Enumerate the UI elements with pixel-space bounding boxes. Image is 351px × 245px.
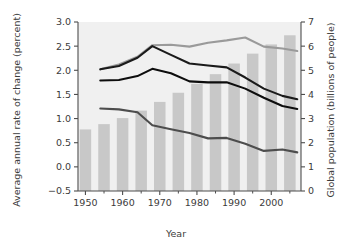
y-tick-label-left: 0.0 bbox=[56, 161, 71, 172]
x-tick-label: 1950 bbox=[73, 197, 97, 208]
y-tick-label-right: 3 bbox=[308, 113, 314, 124]
x-tick-label: 1990 bbox=[222, 197, 246, 208]
chart-figure: 195019601970198019902000 −0.50.00.51.01.… bbox=[0, 0, 351, 245]
y-tick-label-left: 1.0 bbox=[56, 113, 71, 124]
y-tick-label-right: 2 bbox=[308, 137, 314, 148]
bar bbox=[210, 74, 222, 191]
y-tick-label-left: 1.5 bbox=[56, 89, 71, 100]
y-tick-label-left: 2.5 bbox=[56, 41, 71, 52]
x-tick-label: 1980 bbox=[185, 197, 209, 208]
y-tick-label-left: 2.0 bbox=[56, 65, 71, 76]
bar bbox=[98, 124, 110, 191]
y-tick-label-right: 4 bbox=[308, 89, 314, 100]
y-axis-right-title: Global population (billions of people) bbox=[325, 22, 336, 197]
y-tick-label-left: 3.0 bbox=[56, 16, 71, 27]
bar bbox=[80, 129, 92, 191]
y-tick-label-left: −0.5 bbox=[48, 185, 71, 196]
y-tick-label-left: 0.5 bbox=[56, 137, 71, 148]
bar bbox=[247, 54, 259, 191]
bar bbox=[173, 93, 185, 191]
bar bbox=[135, 111, 147, 191]
x-axis-title: Year bbox=[165, 228, 186, 239]
y-tick-label-right: 7 bbox=[308, 16, 314, 27]
y-tick-label-right: 0 bbox=[308, 185, 314, 196]
bar bbox=[266, 44, 278, 191]
y-tick-label-right: 1 bbox=[308, 161, 314, 172]
y-tick-label-right: 6 bbox=[308, 41, 314, 52]
population-growth-chart: 195019601970198019902000 −0.50.00.51.01.… bbox=[0, 0, 351, 245]
x-tick-label: 2000 bbox=[259, 197, 283, 208]
y-tick-label-right: 5 bbox=[308, 65, 314, 76]
bar bbox=[284, 35, 296, 191]
x-tick-label: 1970 bbox=[148, 197, 172, 208]
y-axis-left-title: Average annual rate of change (percent) bbox=[11, 13, 22, 207]
bar bbox=[117, 118, 129, 191]
x-tick-label: 1960 bbox=[111, 197, 135, 208]
bar bbox=[154, 102, 166, 191]
